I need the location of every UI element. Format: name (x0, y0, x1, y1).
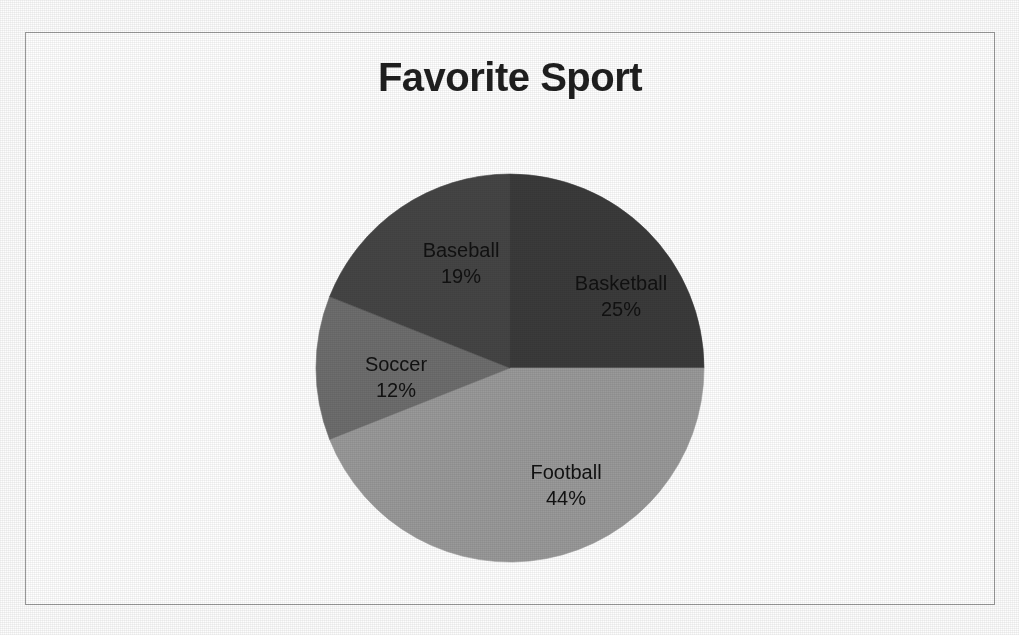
chart-frame: Favorite Sport Basketball 25% Football 4… (25, 32, 995, 605)
scanned-page: Favorite Sport Basketball 25% Football 4… (0, 0, 1019, 635)
pie-slice-group (316, 174, 704, 562)
pie-chart: Basketball 25% Football 44% Soccer 12% B… (26, 33, 996, 606)
pie-svg (26, 33, 996, 606)
pie-slice-basketball (510, 174, 704, 368)
